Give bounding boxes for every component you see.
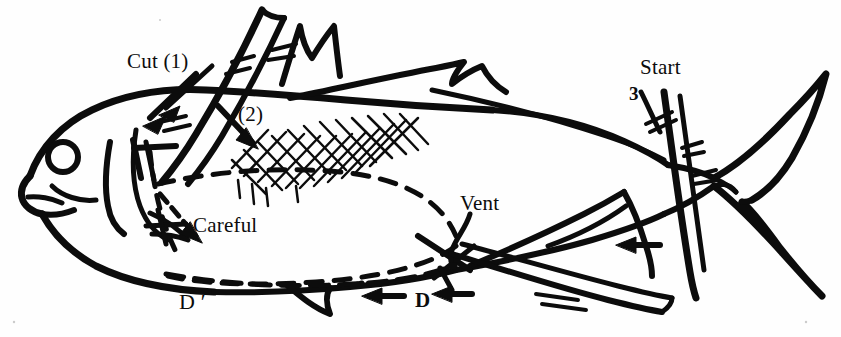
label-vent: Vent (460, 193, 499, 214)
fish-diagram-figure: Cut (1) (2) Careful D ′ Vent D Start 3 (0, 0, 841, 337)
label-d: D (415, 290, 430, 311)
label-step-2: (2) (238, 104, 263, 125)
fish-body-outline (21, 90, 668, 293)
label-start: Start (640, 57, 681, 78)
arrow-d-left-inner (432, 286, 472, 302)
label-d-prime: D ′ (179, 291, 206, 313)
fish-dorsal-fin (282, 26, 664, 160)
arrow-anal-fin-left (616, 237, 660, 253)
arrow-d-left-outer (362, 288, 404, 304)
cross-hatch-region (232, 114, 428, 206)
label-step-3: 3 (629, 84, 639, 103)
fish-eye (48, 142, 78, 172)
label-careful: Careful (193, 215, 257, 236)
fish-gill-cover (106, 142, 124, 234)
knife-blade-lower (452, 244, 672, 312)
label-cut-1: Cut (1) (127, 51, 188, 72)
